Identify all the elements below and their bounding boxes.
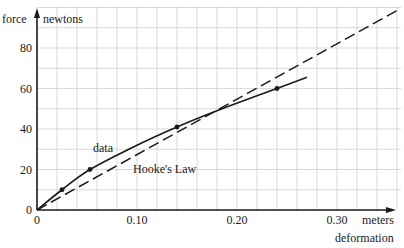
x-axis-label: deformation [335,232,394,244]
y-tick-label: 40 [20,122,32,136]
tick-labels: 00.100.200.30020406080 [20,41,348,227]
y-tick-label: 20 [20,163,32,177]
y-tick-label: 0 [26,203,32,217]
data-point [60,187,65,192]
y-tick-label: 60 [20,82,32,96]
data-point [175,125,180,130]
x-tick-label: 0.20 [227,213,248,227]
force-deformation-chart: 00.100.200.30020406080 [0,0,404,248]
y-axis-arrow-icon [34,8,40,18]
x-tick-label: 0.10 [127,213,148,227]
x-axis-unit: meters [362,214,394,226]
x-tick-label: 0 [34,213,40,227]
data-series-label: data [93,142,113,154]
data-point [88,167,93,172]
data-point [275,86,280,91]
y-axis-label: force [2,13,27,25]
y-axis-unit: newtons [43,13,83,25]
hooke-series-label: Hooke's Law [133,163,196,175]
y-tick-label: 80 [20,41,32,55]
x-tick-label: 0.30 [327,213,348,227]
